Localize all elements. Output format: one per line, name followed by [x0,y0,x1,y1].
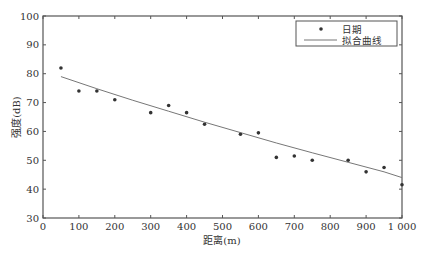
legend-label: 拟合曲线 [342,35,382,46]
x-tick-label: 300 [141,221,160,232]
data-point [95,89,99,93]
y-tick-label: 90 [26,39,39,50]
y-tick-label: 60 [26,126,39,137]
y-axis-title: 强度(dB) [10,96,22,138]
data-point [185,111,189,115]
y-tick-label: 70 [26,97,39,108]
x-tick-label: 600 [249,221,268,232]
y-tick-label: 100 [20,11,39,22]
data-point [400,183,404,187]
y-tick-label: 30 [26,213,39,224]
data-point [167,104,171,108]
x-tick-label: 200 [105,221,124,232]
data-point [382,166,386,170]
data-point [77,89,81,93]
y-tick-label: 50 [26,155,39,166]
chart: 01002003004005006007008009001 0003040506… [0,0,423,258]
data-point [257,131,261,135]
data-point [59,66,63,70]
legend-dot-icon [319,27,323,31]
x-tick-label: 0 [40,221,46,232]
data-point [203,122,207,126]
fit-curve [61,77,402,178]
data-point [149,111,153,115]
x-tick-label: 400 [177,221,196,232]
x-tick-label: 800 [321,221,340,232]
data-point [310,158,314,162]
data-point [346,158,350,162]
x-axis-title: 距离(m) [203,234,240,246]
data-point [293,154,297,158]
data-point [239,133,243,137]
data-point [113,98,117,102]
legend: 日期拟合曲线 [296,21,397,46]
data-point [364,170,368,174]
x-tick-label: 1 000 [388,221,417,232]
x-tick-label: 500 [213,221,232,232]
x-tick-label: 100 [69,221,88,232]
data-point [275,156,279,160]
x-tick-label: 700 [285,221,304,232]
y-tick-label: 40 [26,184,39,195]
x-tick-label: 900 [357,221,376,232]
y-tick-label: 80 [26,68,39,79]
legend-label: 日期 [342,24,362,35]
